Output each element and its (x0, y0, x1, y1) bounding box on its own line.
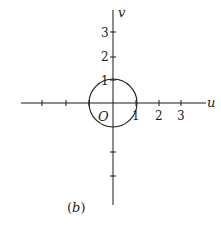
u-tick-label-1: 1 (132, 109, 140, 123)
u-axis-label: u (207, 95, 215, 110)
u-tick-label-2: 2 (155, 109, 163, 123)
panel-label: (b) (67, 200, 85, 215)
origin-label: O (98, 109, 109, 124)
v-tick-label-1: 1 (101, 74, 109, 88)
u-tick-label-3: 3 (177, 109, 185, 123)
v-tick-label-2: 2 (101, 50, 109, 64)
diagram-canvas: v u O 3 2 1 1 2 3 (b) (0, 0, 221, 226)
v-axis-label: v (118, 5, 126, 20)
panel-letter: b (72, 200, 80, 215)
v-tick-label-3: 3 (101, 26, 109, 40)
